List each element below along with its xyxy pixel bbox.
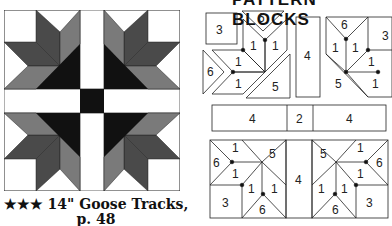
svg-text:1: 1 (232, 141, 239, 155)
svg-text:1: 1 (235, 77, 242, 91)
svg-text:1: 1 (341, 182, 348, 196)
svg-text:1: 1 (318, 182, 325, 196)
svg-text:1: 1 (235, 55, 242, 69)
svg-text:1: 1 (332, 41, 339, 55)
svg-text:3: 3 (222, 196, 229, 210)
svg-text:5: 5 (272, 80, 279, 94)
svg-text:6: 6 (376, 156, 383, 170)
block-caption-title: ★★★ 14" Goose Tracks, (0, 196, 192, 212)
svg-text:1: 1 (372, 77, 379, 91)
piecing-diagram: 3 6 1 1 1 1 6 5 4 6 3 1 1 1 5 1 4 2 4 1 … (200, 0, 392, 226)
svg-text:6: 6 (259, 203, 266, 217)
svg-text:4: 4 (249, 112, 256, 126)
svg-text:4: 4 (295, 173, 302, 187)
svg-text:3: 3 (382, 29, 389, 43)
svg-text:1: 1 (357, 167, 364, 181)
svg-text:1: 1 (357, 141, 364, 155)
svg-text:4: 4 (346, 112, 353, 126)
svg-text:6: 6 (341, 18, 348, 32)
svg-text:1: 1 (271, 182, 278, 196)
svg-text:5: 5 (320, 147, 327, 161)
svg-text:1: 1 (352, 41, 359, 55)
svg-text:6: 6 (213, 156, 220, 170)
block-caption-page: p. 48 (0, 211, 192, 226)
svg-text:6: 6 (207, 65, 214, 79)
svg-text:5: 5 (269, 147, 276, 161)
svg-text:3: 3 (216, 23, 223, 37)
svg-text:3: 3 (366, 196, 373, 210)
svg-text:1: 1 (368, 55, 375, 69)
goose-tracks-quilt-block (4, 10, 180, 191)
svg-text:6: 6 (332, 203, 339, 217)
svg-text:4: 4 (304, 49, 311, 63)
svg-text:6: 6 (258, 11, 265, 25)
svg-text:1: 1 (248, 182, 255, 196)
svg-text:5: 5 (335, 77, 342, 91)
svg-text:1: 1 (250, 39, 257, 53)
svg-text:1: 1 (272, 39, 279, 53)
svg-text:1: 1 (232, 167, 239, 181)
svg-text:2: 2 (296, 112, 303, 126)
